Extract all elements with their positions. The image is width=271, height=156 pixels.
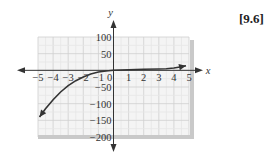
svg-text:x: x: [205, 65, 211, 76]
svg-text:−50: −50: [95, 82, 111, 93]
reference-label: [9.6]: [239, 11, 264, 27]
svg-text:y: y: [107, 7, 113, 18]
svg-text:50: 50: [101, 49, 112, 60]
function-graph: xy−5−4−3−2−101234510050−50−100−150−200: [0, 0, 271, 156]
svg-text:−4: −4: [48, 72, 60, 83]
svg-text:−100: −100: [90, 99, 112, 110]
svg-text:−5: −5: [32, 72, 43, 83]
svg-text:−150: −150: [90, 115, 112, 126]
svg-text:100: 100: [96, 32, 112, 43]
svg-text:−200: −200: [90, 132, 112, 143]
svg-text:1: 1: [126, 72, 131, 83]
svg-text:2: 2: [141, 72, 146, 83]
svg-text:3: 3: [156, 72, 161, 83]
svg-text:4: 4: [171, 72, 177, 83]
svg-text:5: 5: [186, 72, 191, 83]
svg-text:−3: −3: [63, 72, 74, 83]
